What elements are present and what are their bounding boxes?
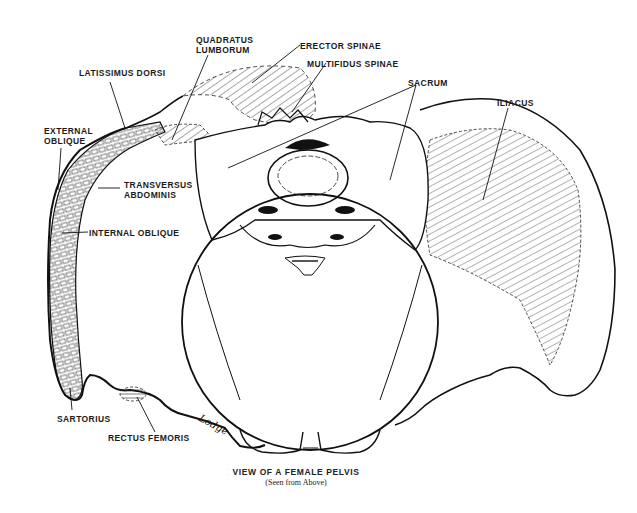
oblique-muscle-band <box>50 122 165 400</box>
label-line: EXTERNAL <box>44 126 93 136</box>
label-line: QUADRATUS <box>196 35 253 45</box>
label-sartorius: SARTORIUS <box>57 414 111 424</box>
label-line: LUMBORUM <box>196 45 250 55</box>
caption-title: VIEW OF A FEMALE PELVIS <box>0 467 637 477</box>
figure-caption: VIEW OF A FEMALE PELVIS (Seen from Above… <box>0 467 637 487</box>
label-sacrum: SACRUM <box>408 78 448 88</box>
label-transversus-abdominis: TRANSVERSUS ABDOMINIS <box>124 180 193 200</box>
caption-subtitle: (Seen from Above) <box>0 478 637 487</box>
label-quadratus-lumborum: QUADRATUS LUMBORUM <box>196 35 253 55</box>
label-iliacus: ILIACUS <box>497 98 534 108</box>
iliacus-region <box>425 129 581 365</box>
rectus-femoris-region <box>120 387 146 401</box>
label-erector-spinae: ERECTOR SPINAE <box>300 41 381 51</box>
label-rectus-femoris: RECTUS FEMORIS <box>108 433 190 443</box>
label-external-oblique: EXTERNAL OBLIQUE <box>44 126 93 146</box>
label-latissimus-dorsi: LATISSIMUS DORSI <box>79 68 166 78</box>
label-line: TRANSVERSUS <box>124 180 193 190</box>
label-internal-oblique: INTERNAL OBLIQUE <box>89 228 179 238</box>
label-line: ABDOMINIS <box>124 190 176 200</box>
label-multifidus-spinae: MULTIFIDUS SPINAE <box>307 59 399 69</box>
label-line: OBLIQUE <box>44 136 86 146</box>
